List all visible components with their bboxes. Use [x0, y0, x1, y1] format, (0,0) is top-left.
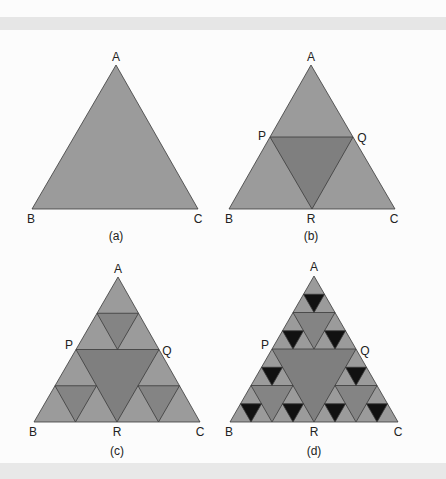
vertex-label-b: B [225, 425, 233, 439]
vertex-label-c: C [390, 212, 399, 226]
outer-triangle-ABC [32, 65, 198, 209]
vertex-label-q: Q [357, 131, 366, 145]
vertex-label-c: C [194, 212, 203, 226]
vertex-label-p: P [258, 129, 266, 143]
vertex-label-p: P [261, 338, 269, 352]
panel-caption: (a) [109, 229, 124, 243]
vertex-label-r: R [113, 425, 122, 439]
vertex-label-b: B [29, 425, 37, 439]
vertex-label-b: B [225, 212, 233, 226]
panel-a-triangle: ABC(a) [27, 50, 203, 243]
vertex-label-p: P [65, 338, 73, 352]
sierpinski-figure: ABC(a) APQBRC(b) APQBRC(c) APQBRC(d) [0, 0, 446, 479]
panel-caption: (d) [307, 444, 322, 458]
vertex-label-q: Q [162, 344, 171, 358]
vertex-label-a: A [310, 260, 318, 274]
vertex-label-r: R [310, 425, 319, 439]
vertex-label-a: A [307, 50, 315, 64]
vertex-label-a: A [114, 262, 122, 276]
vertex-label-r: R [307, 212, 316, 226]
vertex-label-a: A [112, 50, 120, 64]
panel-caption: (c) [110, 444, 124, 458]
panel-d-subdivided-triangle: APQBRC(d) [225, 260, 403, 458]
panel-c-subdivided-triangle: APQBRC(c) [29, 262, 205, 458]
vertex-label-q: Q [360, 344, 369, 358]
vertex-label-c: C [394, 425, 403, 439]
panel-caption: (b) [304, 229, 319, 243]
vertex-label-b: B [27, 212, 35, 226]
panel-b-subdivided-triangle: APQBRC(b) [225, 50, 399, 243]
vertex-label-c: C [196, 425, 205, 439]
